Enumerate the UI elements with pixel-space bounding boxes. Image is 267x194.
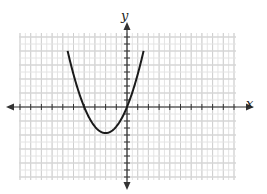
y-axis-label: y — [121, 8, 128, 23]
axes — [6, 22, 254, 190]
x-axis-label: x — [246, 96, 253, 111]
parabola-graph — [0, 0, 267, 194]
